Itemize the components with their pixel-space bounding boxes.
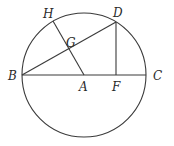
diagram-svg: A B C D F G H — [0, 0, 174, 146]
label-g: G — [66, 36, 76, 50]
geometry-diagram: A B C D F G H — [0, 0, 174, 146]
label-c: C — [153, 69, 162, 83]
label-a: A — [78, 80, 88, 94]
label-b: B — [7, 69, 17, 83]
label-h: H — [42, 7, 54, 21]
label-d: D — [112, 6, 123, 20]
label-f: F — [111, 80, 121, 94]
